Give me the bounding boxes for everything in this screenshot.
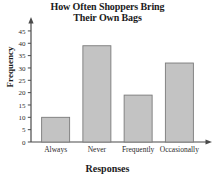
y-axis-arrow-icon [28, 17, 33, 24]
x-axis-category-label: Never [88, 145, 107, 154]
y-axis-tick-label: 45 [19, 28, 27, 36]
bar [124, 95, 152, 142]
y-axis-tick-label: 20 [19, 89, 27, 97]
y-axis-tick-label: 15 [19, 102, 27, 110]
x-axis-category-label: Always [44, 145, 67, 154]
bar [42, 117, 70, 142]
x-axis-category-label: Frequently [122, 145, 155, 154]
x-axis-category-label: Occasionally [160, 145, 199, 154]
bar-chart: How Often Shoppers Bring Their Own Bags … [0, 0, 215, 182]
y-axis-tick-label: 30 [19, 65, 27, 73]
y-axis-tick-label: 0 [22, 139, 26, 147]
bar [165, 63, 193, 142]
bar [83, 46, 111, 142]
y-axis-tick-label: 40 [19, 40, 27, 48]
x-axis-arrow-icon [206, 139, 213, 144]
y-axis-tick-label: 10 [19, 114, 27, 122]
x-axis-label: Responses [0, 163, 215, 174]
y-axis-tick-label: 25 [19, 77, 27, 85]
y-axis-tick-label: 5 [22, 126, 26, 134]
y-axis-tick-label: 35 [19, 52, 27, 60]
plot-area: 051015202530354045AlwaysNeverFrequentlyO… [0, 0, 215, 182]
